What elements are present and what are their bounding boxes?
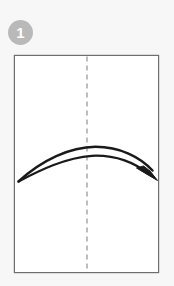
origami-step-diagram: 1 [0, 0, 174, 286]
step-badge: 1 [8, 20, 33, 45]
step-badge-number: 1 [16, 25, 24, 40]
